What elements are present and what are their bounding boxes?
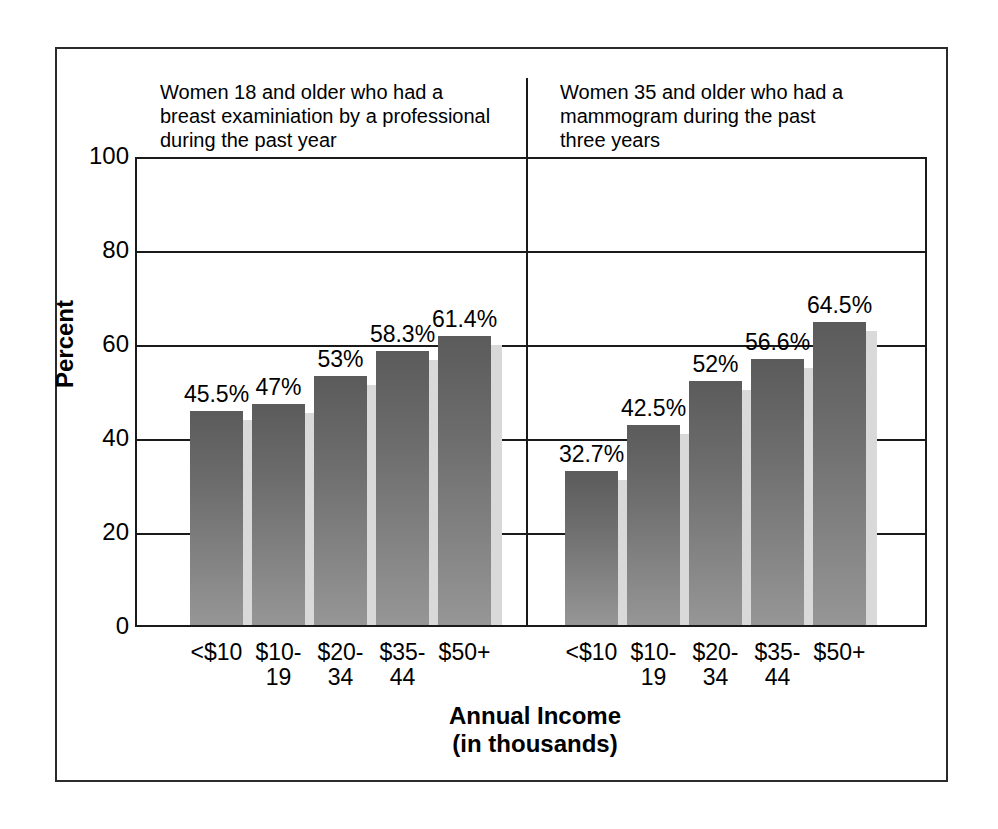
- panel-divider: [526, 78, 528, 627]
- gridline-40: [135, 439, 927, 441]
- panel-title-breast-exam: Women 18 and older who had a breast exam…: [160, 80, 520, 152]
- plot-area-border: [135, 157, 927, 627]
- x-tick-label: $50+: [797, 640, 882, 665]
- gridline-80: [135, 251, 927, 253]
- x-tick-label: $50+: [422, 640, 507, 665]
- panel-title-mammogram: Women 35 and older who had a mammogram d…: [560, 80, 940, 152]
- chart-page: Percent 100 80 60 40 20 0 Women 18 and o…: [0, 0, 998, 829]
- gridline-60: [135, 345, 927, 347]
- gridline-20: [135, 533, 927, 535]
- x-axis-title: Annual Income (in thousands): [335, 702, 735, 758]
